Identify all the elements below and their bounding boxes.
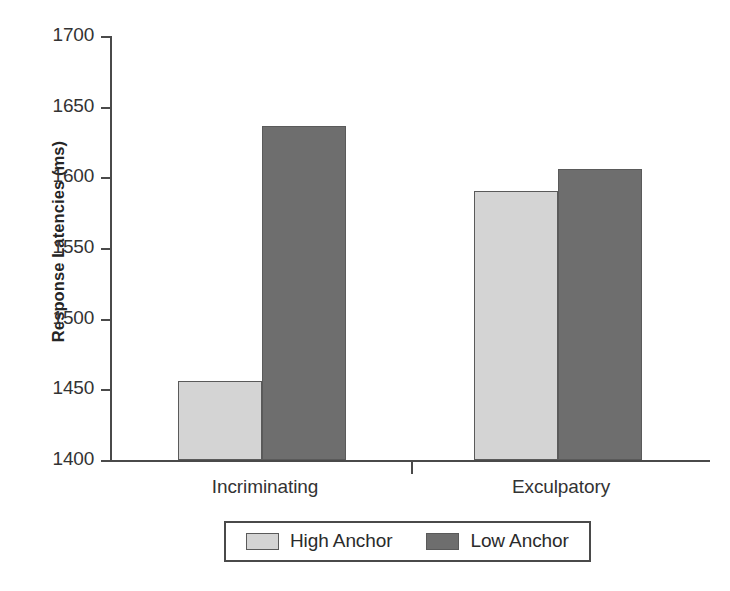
y-tick-label-1700: 1700 [53,24,94,46]
y-tick-label-1450: 1450 [53,377,94,399]
y-tick-label-1650: 1650 [53,95,94,117]
y-tick-label-1600: 1600 [53,165,94,187]
legend-entry-high-anchor: High Anchor [246,530,392,552]
legend: High Anchor Low Anchor [224,521,591,562]
bar-chart-figure: Response Latencies (ms) 1700 1650 1600 1… [0,0,730,591]
x-axis-group-separator-tick [411,462,413,474]
y-tick-1550: 1550 [101,248,110,250]
x-category-label-exculpatory: Exculpatory [478,476,644,498]
x-category-label-incriminating: Incriminating [182,476,348,498]
bar-incriminating-low-anchor [262,126,346,460]
y-tick-1500: 1500 [101,319,110,321]
x-axis-line [110,460,710,462]
plot-area: 1700 1650 1600 1550 1500 1450 1400 [110,36,710,460]
y-tick-1600: 1600 [101,177,110,179]
y-tick-label-1400: 1400 [53,448,94,470]
legend-swatch-low-anchor [426,533,459,550]
legend-entry-low-anchor: Low Anchor [426,530,568,552]
y-tick-1400: 1400 [101,460,110,462]
legend-label-low-anchor: Low Anchor [470,530,568,552]
legend-swatch-high-anchor [246,533,279,550]
y-tick-1650: 1650 [101,107,110,109]
legend-label-high-anchor: High Anchor [290,530,392,552]
y-tick-label-1500: 1500 [53,307,94,329]
y-tick-1450: 1450 [101,389,110,391]
bar-incriminating-high-anchor [178,381,262,460]
y-tick-label-1550: 1550 [53,236,94,258]
bar-exculpatory-low-anchor [558,169,642,460]
y-tick-1700: 1700 [101,36,110,38]
bar-exculpatory-high-anchor [474,191,558,460]
